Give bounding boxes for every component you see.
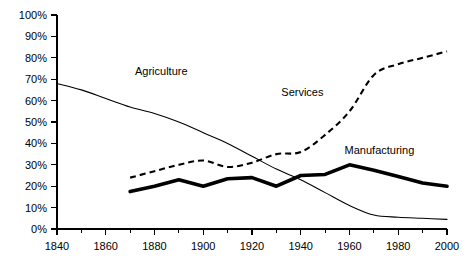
series-label-agriculture: Agriculture: [135, 65, 188, 77]
series-line-manufacturing: [130, 165, 447, 192]
series-annotations-group: Agriculture Services Manufacturing: [135, 65, 414, 156]
y-tick-label: 40%: [25, 137, 47, 149]
y-axis-ticks: [51, 15, 57, 229]
y-tick-label: 10%: [25, 202, 47, 214]
y-axis-tick-labels: 0%10%20%30%40%50%60%70%80%90%100%: [19, 9, 47, 235]
y-tick-label: 30%: [25, 159, 47, 171]
y-tick-label: 0%: [31, 223, 47, 235]
x-tick-label: 1840: [45, 240, 69, 252]
x-tick-label: 1920: [240, 240, 264, 252]
x-tick-label: 1900: [191, 240, 215, 252]
y-tick-label: 60%: [25, 95, 47, 107]
economic-sector-share-chart: 0%10%20%30%40%50%60%70%80%90%100% 184018…: [0, 0, 470, 269]
x-axis-tick-labels: 184018601880190019201940196019802000: [45, 240, 459, 252]
x-tick-label: 1880: [142, 240, 166, 252]
chart-canvas: 0%10%20%30%40%50%60%70%80%90%100% 184018…: [0, 0, 470, 269]
x-axis-ticks: [57, 229, 447, 235]
y-tick-label: 50%: [25, 116, 47, 128]
x-tick-label: 1940: [289, 240, 313, 252]
x-tick-label: 1860: [94, 240, 118, 252]
y-tick-label: 70%: [25, 73, 47, 85]
y-axis-group: 0%10%20%30%40%50%60%70%80%90%100%: [19, 9, 57, 235]
y-tick-label: 90%: [25, 30, 47, 42]
x-axis-group: 184018601880190019201940196019802000: [45, 229, 459, 252]
y-tick-label: 80%: [25, 52, 47, 64]
x-tick-label: 1960: [337, 240, 361, 252]
x-tick-label: 2000: [435, 240, 459, 252]
x-tick-label: 1980: [386, 240, 410, 252]
plot-series-group: [57, 51, 447, 219]
y-tick-label: 100%: [19, 9, 47, 21]
series-label-manufacturing: Manufacturing: [345, 144, 415, 156]
y-tick-label: 20%: [25, 180, 47, 192]
series-label-services: Services: [281, 86, 324, 98]
